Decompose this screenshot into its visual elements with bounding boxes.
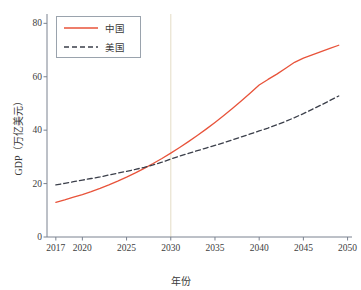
y-tick-label: 20 <box>18 179 42 189</box>
y-tick-label: 40 <box>18 125 42 135</box>
x-tick-label: 2045 <box>294 243 313 253</box>
legend-line-dashed-icon <box>63 42 99 52</box>
x-tick-label: 2050 <box>338 243 357 253</box>
x-tick-label: 2030 <box>161 243 180 253</box>
x-tick-label: 2035 <box>205 243 224 253</box>
series-line-usa <box>56 96 339 185</box>
legend-item-usa: 美国 <box>57 37 140 56</box>
y-tick-label: 0 <box>18 232 42 242</box>
x-tick-label: 2025 <box>117 243 136 253</box>
series-line-china <box>56 45 339 202</box>
y-tick-label: 80 <box>18 18 42 28</box>
y-tick-label: 60 <box>18 72 42 82</box>
x-axis-title: 年份 <box>0 273 361 288</box>
legend-label-usa: 美国 <box>105 40 125 54</box>
legend-line-solid-icon <box>63 23 99 33</box>
chart-legend: 中国 美国 <box>56 16 141 58</box>
legend-item-china: 中国 <box>57 18 140 37</box>
x-tick-label: 2040 <box>250 243 269 253</box>
x-tick-label: 2017 <box>46 243 65 253</box>
chart-figure: GDP（万亿美元） 年份 020406080 20172020202520302… <box>0 0 361 290</box>
legend-label-china: 中国 <box>105 21 125 35</box>
x-tick-label: 2020 <box>73 243 92 253</box>
